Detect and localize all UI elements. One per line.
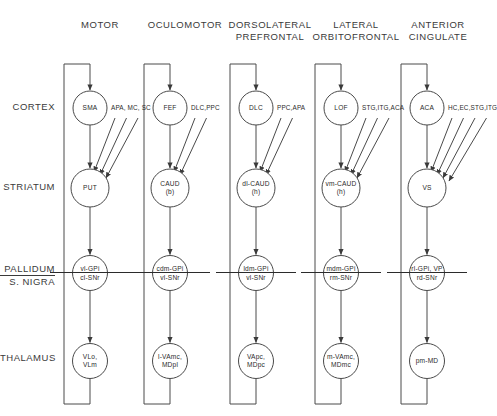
column-header-line1: DORSOLATERAL: [229, 19, 312, 30]
node-label-line1: FEF: [163, 104, 176, 111]
node-label-line1: m-VAmc,: [301, 353, 381, 361]
column-header-line1: MOTOR: [81, 19, 119, 30]
node-label-line1: vm-CAUD: [301, 180, 381, 188]
row-label-cortex: CORTEX: [0, 101, 55, 113]
node-label-pallidum-dorsolateral-prefrontal: ldm-GPivl-SNr: [216, 265, 296, 282]
column-header-line2: PREFRONTAL: [236, 31, 305, 42]
node-label-striatum-motor: PUT: [50, 184, 130, 192]
node-label-line1: LOF: [334, 104, 347, 111]
node-label-line2: rd-SNr: [387, 273, 467, 281]
column-header-dorsolateral-prefrontal: DORSOLATERAL PREFRONTAL: [220, 19, 320, 42]
column-header-line1: OCULOMOTOR: [148, 19, 222, 30]
node-label-line1: l-VAmc,: [130, 353, 210, 361]
node-label-line1: SMA: [83, 104, 98, 111]
column-header-line1: LATERAL: [333, 19, 378, 30]
node-label-thalamus-oculomotor: l-VAmc,MDpl: [130, 353, 210, 369]
node-label-line2: MDmc: [301, 360, 381, 368]
node-label-line2: (h): [301, 187, 381, 195]
cortical-input-arrow-lateral-orbitofrontal-1: [345, 118, 366, 172]
column-header-motor: MOTOR: [58, 19, 142, 31]
column-header-line2: ORBITOFRONTAL: [312, 31, 399, 42]
node-label-line1: DLC: [249, 104, 263, 111]
node-label-line1: ldm-GPi: [216, 265, 296, 274]
row-label-line2: S. NIGRA: [9, 276, 55, 287]
node-label-line2: vl-SNr: [130, 273, 210, 281]
column-header-anterior-cingulate: ANTERIOR CINGULATE: [392, 19, 484, 42]
node-label-line2: MDpc: [216, 360, 296, 368]
row-label-line1: PALLIDUM: [0, 263, 55, 276]
node-label-striatum-dorsolateral-prefrontal: dl-CAUD(h): [216, 180, 296, 196]
node-label-line2: rm-SNr: [301, 273, 381, 281]
node-label-pallidum-anterior-cingulate: rl-GPi, VPrd-SNr: [387, 265, 467, 282]
node-label-line2: (h): [216, 187, 296, 195]
node-label-line1: pm-MD: [416, 357, 439, 364]
node-label-line2: VLm: [50, 360, 130, 368]
cortical-input-arrow-oculomotor-1: [174, 118, 195, 172]
node-label-line1: CAUD: [130, 180, 210, 188]
node-label-line1: ACA: [420, 104, 434, 111]
node-label-line2: MDpl: [130, 360, 210, 368]
node-label-line1: dl-CAUD: [216, 180, 296, 188]
node-label-striatum-anterior-cingulate: VS: [387, 184, 467, 192]
row-label-pallidum-substantia-nigra: PALLIDUM S. NIGRA: [0, 263, 55, 288]
row-label-striatum: STRIATUM: [0, 181, 55, 193]
column-header-lateral-orbitofrontal: LATERAL ORBITOFRONTAL: [306, 19, 406, 42]
row-label-line1: THALAMUS: [0, 352, 56, 363]
node-label-line1: VS: [422, 184, 431, 191]
node-label-line1: VApc,: [216, 353, 296, 361]
node-label-line1: cdm-GPi: [130, 265, 210, 274]
cortical-input-arrow-anterior-cingulate-4: [449, 118, 487, 181]
node-label-thalamus-motor: VLo,VLm: [50, 353, 130, 369]
node-label-line1: mdm-GPi: [301, 265, 381, 274]
node-label-line1: VLo,: [50, 353, 130, 361]
node-label-pallidum-lateral-orbitofrontal: mdm-GPirm-SNr: [301, 265, 381, 282]
node-label-striatum-lateral-orbitofrontal: vm-CAUD(h): [301, 180, 381, 196]
column-header-line1: ANTERIOR: [411, 19, 465, 30]
node-label-thalamus-lateral-orbitofrontal: m-VAmc,MDmc: [301, 353, 381, 369]
cortical-input-arrow-anterior-cingulate-1: [431, 118, 452, 172]
node-label-pallidum-motor: vl-GPicl-SNr: [50, 265, 130, 282]
node-label-line2: vl-SNr: [216, 273, 296, 281]
node-label-line1: vl-GPi: [50, 265, 130, 274]
node-label-pallidum-oculomotor: cdm-GPivl-SNr: [130, 265, 210, 282]
cortical-input-arrow-motor-1: [94, 118, 115, 172]
node-label-line2: (b): [130, 187, 210, 195]
node-label-line1: rl-GPi, VP: [387, 265, 467, 274]
column-header-line2: CINGULATE: [409, 31, 468, 42]
row-label-thalamus: THALAMUS: [0, 352, 55, 364]
node-label-line1: PUT: [83, 184, 97, 191]
node-label-thalamus-anterior-cingulate: pm-MD: [387, 357, 467, 365]
cortical-input-arrow-dorsolateral-prefrontal-1: [260, 118, 281, 172]
node-label-thalamus-dorsolateral-prefrontal: VApc,MDpc: [216, 353, 296, 369]
node-label-striatum-oculomotor: CAUD(b): [130, 180, 210, 196]
row-label-line1: STRIATUM: [3, 181, 55, 192]
cortical-input-label-anterior-cingulate: HC,EC,STG,ITG: [448, 104, 497, 111]
column-header-oculomotor: OCULOMOTOR: [140, 19, 230, 31]
node-label-line2: cl-SNr: [50, 273, 130, 281]
row-label-line1: CORTEX: [13, 101, 55, 112]
